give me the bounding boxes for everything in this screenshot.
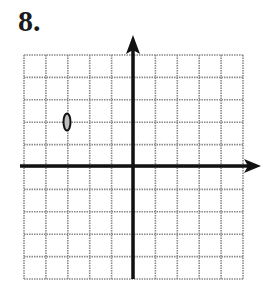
- y-axis: [126, 35, 140, 279]
- coordinate-grid: [0, 0, 274, 306]
- x-axis: [20, 159, 261, 173]
- plotted-point-marker: [64, 114, 71, 131]
